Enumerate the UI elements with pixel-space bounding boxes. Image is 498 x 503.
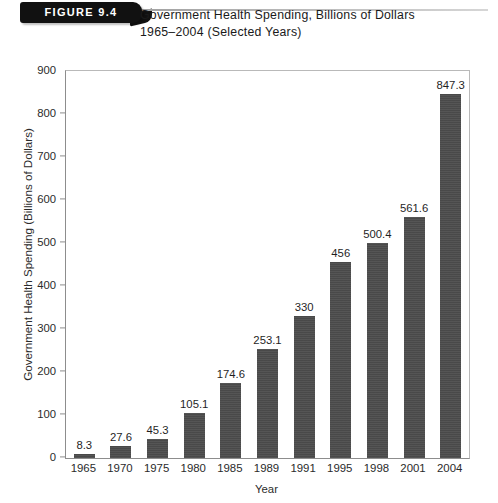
bar-value-label: 847.3 [425,79,476,91]
y-tick-label: 900 [37,64,56,76]
bar [294,316,315,458]
y-tick-label: 700 [37,150,56,162]
x-axis-label: Year [65,483,468,495]
bar [367,243,388,458]
y-tick-label: 0 [50,451,56,463]
bar-value-label: 330 [279,301,330,313]
y-tick-label: 800 [37,107,56,119]
bar [184,413,205,458]
plot-area: 8.327.645.3105.1174.6253.1330456500.4561… [65,70,470,459]
bar-value-label: 561.6 [389,202,440,214]
bar-column: 456 [324,71,357,458]
bar-column: 561.6 [398,71,431,458]
figure-title-line-2: 1965–2004 (Selected Years) [140,24,488,41]
y-tick-label: 300 [37,322,56,334]
y-tick-label: 400 [37,279,56,291]
y-tick-label: 600 [37,193,56,205]
bar-column: 847.3 [434,71,467,458]
bar-value-label: 456 [315,247,366,259]
bar-column: 174.6 [214,71,247,458]
bar [110,446,131,458]
figure-header: FIGURE 9.4 Government Health Spending, B… [0,0,498,58]
bar-value-label: 500.4 [352,228,403,240]
bar-value-label: 45.3 [132,424,183,436]
y-tick-label: 500 [37,236,56,248]
bar-value-label: 253.1 [242,334,293,346]
bar-column: 330 [288,71,321,458]
bar-chart: 0100200300400500600700800900 Government … [0,58,498,503]
bar-column: 253.1 [251,71,284,458]
bar [330,262,351,458]
bar-column: 105.1 [178,71,211,458]
bar [220,383,241,458]
bar-column: 500.4 [361,71,394,458]
y-axis-label: Government Health Spending (Billions of … [21,60,34,450]
bar-column: 8.3 [68,71,101,458]
figure-number-tag: FIGURE 9.4 [20,2,142,23]
bar-value-label: 174.6 [205,368,256,380]
bar-value-label: 105.1 [169,398,220,410]
bar [440,94,461,458]
figure-title-line-1: Government Health Spending, Billions of … [140,8,415,22]
figure-title: Government Health Spending, Billions of … [140,7,488,41]
bar [257,349,278,458]
bar [74,454,95,458]
y-tick-label: 200 [37,365,56,377]
bar [147,439,168,458]
y-tick-label: 100 [37,408,56,420]
x-tick-label: 2004 [426,462,473,474]
bar [404,217,425,458]
bar-column: 27.6 [104,71,137,458]
